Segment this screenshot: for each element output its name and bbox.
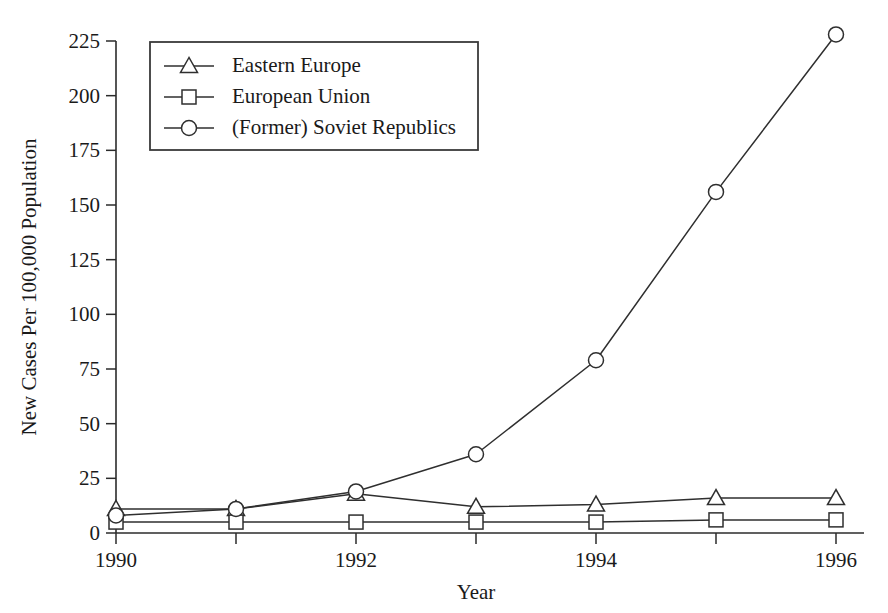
- data-point-triangle-icon: [828, 490, 845, 505]
- data-point-circle-icon: [709, 184, 724, 199]
- line-chart-figure: 0255075100125150175200225199019921994199…: [0, 0, 888, 613]
- data-point-circle-icon: [109, 508, 124, 523]
- y-tick-label: 150: [69, 193, 101, 217]
- data-point-square-icon: [349, 515, 363, 529]
- data-point-circle-icon: [829, 27, 844, 42]
- x-tick-label: 1994: [575, 548, 618, 572]
- legend-marker-square-icon: [182, 90, 196, 104]
- legend-marker-circle-icon: [182, 121, 197, 136]
- x-tick-label: 1992: [335, 548, 377, 572]
- legend-item-label: Eastern Europe: [232, 53, 361, 77]
- data-point-square-icon: [469, 515, 483, 529]
- y-tick-label: 200: [69, 84, 101, 108]
- x-axis-title: Year: [457, 580, 496, 604]
- y-tick-label: 125: [69, 248, 101, 272]
- data-point-circle-icon: [349, 484, 364, 499]
- chart-canvas: 0255075100125150175200225199019921994199…: [0, 0, 888, 613]
- y-tick-label: 75: [79, 357, 100, 381]
- y-axis-title: New Cases Per 100,000 Population: [17, 138, 41, 435]
- data-point-circle-icon: [469, 447, 484, 462]
- x-tick-label: 1990: [95, 548, 137, 572]
- series-square: [109, 513, 843, 529]
- y-tick-label: 225: [69, 29, 101, 53]
- y-tick-label: 100: [69, 302, 101, 326]
- data-point-square-icon: [709, 513, 723, 527]
- y-tick-label: 0: [90, 521, 101, 545]
- data-point-circle-icon: [229, 501, 244, 516]
- legend-item-label: (Former) Soviet Republics: [232, 115, 456, 139]
- data-point-square-icon: [829, 513, 843, 527]
- data-point-circle-icon: [589, 353, 604, 368]
- y-tick-label: 25: [79, 466, 100, 490]
- legend: Eastern EuropeEuropean Union(Former) Sov…: [150, 42, 478, 150]
- data-point-square-icon: [589, 515, 603, 529]
- legend-item-label: European Union: [232, 84, 371, 108]
- x-tick-label: 1996: [815, 548, 857, 572]
- series-triangle: [108, 485, 845, 515]
- data-point-triangle-icon: [708, 490, 725, 505]
- y-tick-label: 50: [79, 412, 100, 436]
- y-tick-label: 175: [69, 138, 101, 162]
